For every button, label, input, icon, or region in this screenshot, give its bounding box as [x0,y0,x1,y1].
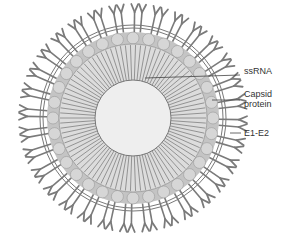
capsid-subunit [49,96,61,108]
e1-e2-spike-head [235,147,242,152]
e1-e2-spike-head [23,149,32,150]
e1-e2-spike-head [161,8,162,17]
capsid-subunit [201,81,213,93]
capsid-subunit [158,38,170,50]
e1-e2-spike-head [121,4,124,12]
e1-e2-spike-stem [27,109,47,111]
e1-e2-spike-head [239,116,247,119]
e1-e2-spike-head [85,215,91,221]
e1-e2-spike-head [114,5,116,13]
e1-e2-spike-stem [209,158,227,167]
virus-diagram [0,0,293,243]
e1-e2-spike-head [235,146,244,147]
e1-e2-spike-head [104,220,105,229]
e1-e2-spike-head [20,135,28,137]
e1-e2-spike-head [28,157,34,163]
e1-e2-spike-head [23,89,32,90]
e1-e2-spike-stem [173,24,182,42]
e1-e2-spike-head [230,160,236,166]
e1-e2-spike-head [131,224,134,232]
e1-e2-spike-head [226,66,235,67]
e1-e2-spike-stem [219,125,239,127]
e1-e2-spike-head [106,222,111,229]
e1-e2-spike-head [22,91,29,96]
e1-e2-spike-head [142,223,145,231]
e1-e2-spike-head [117,5,121,13]
e1-e2-spike-stem [84,194,93,212]
capsid-subunit [205,128,217,140]
e1-e2-spike-head [120,224,124,232]
e1-e2-spike-head [165,219,171,226]
e1-e2-spike-head [21,96,29,98]
e1-e2-spike-stem [218,106,238,108]
capsid-subunit [53,81,65,93]
e1-e2-spike-head [20,130,28,134]
label-capsid-line2: protein [244,99,272,109]
e1-e2-spike-head [81,17,82,26]
label-capsid-line1: Capsid [244,89,272,99]
capsid-subunit [111,190,123,202]
e1-e2-spike-head [232,73,238,79]
core-cavity [95,80,171,156]
e1-e2-spike-head [239,120,247,124]
e1-e2-spike-head [124,224,127,232]
capsid-subunit [207,112,219,124]
capsid-subunit [111,34,123,46]
capsid-subunit [49,128,61,140]
e1-e2-spike-head [150,222,152,230]
e1-e2-spike-stem [140,12,142,32]
e1-e2-spike-head [109,7,114,14]
capsid-subunit [127,32,139,44]
label-e1-e2: E1-E2 [244,128,269,138]
e1-e2-spike-head [135,4,139,12]
e1-e2-spike-head [95,10,101,17]
e1-e2-spike-stem [28,128,48,130]
e1-e2-spike-stem [121,13,123,33]
e1-e2-spike-head [155,7,160,14]
e1-e2-spike-head [19,116,27,119]
e1-e2-spike-head [234,86,243,87]
e1-e2-spike-head [131,4,134,12]
e1-e2-spike-head [22,137,29,142]
e1-e2-spike-head [239,124,247,127]
e1-e2-spike-stem [218,99,238,103]
e1-e2-spike-head [139,4,142,12]
e1-e2-spike-head [20,105,28,109]
capsid-subunit [158,186,170,198]
e1-e2-spike-stem [124,204,126,224]
label-capsid-protein: Capsid protein [244,89,272,109]
e1-e2-spike-stem [114,14,118,34]
e1-e2-spike-head [32,169,41,170]
e1-e2-spike-head [175,15,181,21]
e1-e2-spike-stem [149,203,153,223]
label-ssrna: ssRNA [244,66,272,76]
capsid-subunit [201,143,213,155]
e1-e2-spike-head [111,222,113,230]
e1-e2-spike-head [30,70,36,76]
e1-e2-spike-stem [143,203,145,223]
e1-e2-spike-head [172,217,178,223]
e1-e2-spike-head [19,113,27,117]
capsid-subunit [205,96,217,108]
e1-e2-spike-head [142,5,146,13]
e1-e2-spike-head [184,211,185,220]
e1-e2-spike-head [98,220,103,227]
capsid-subunit [127,192,139,204]
capsid-subunit [53,143,65,155]
e1-e2-spike-head [101,8,102,17]
e1-e2-spike-stem [29,134,49,138]
e1-e2-spike-stem [39,69,57,78]
e1-e2-spike-head [234,80,241,86]
e1-e2-spike-head [162,9,167,16]
capsid-subunit [47,112,59,124]
e1-e2-spike-head [19,109,27,112]
e1-e2-spike-head [154,6,156,14]
capsid-subunit [143,34,155,46]
e1-e2-spike-head [145,223,149,231]
e1-e2-spike-head [128,224,132,232]
e1-e2-spike-head [237,139,245,141]
e1-e2-spike-head [88,13,94,19]
e1-e2-spike-head [19,127,27,130]
capsid-subunit [143,190,155,202]
e1-e2-spike-head [24,83,31,88]
